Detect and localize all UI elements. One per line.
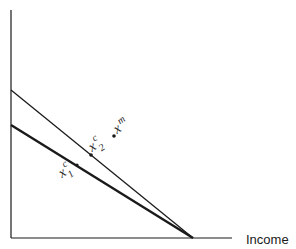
income-diagram: x c 2 x m x c 1 Income bbox=[0, 0, 296, 249]
label-x1c: x c 1 bbox=[52, 157, 77, 184]
label-xm: x m bbox=[108, 113, 132, 137]
lower-budget-line bbox=[11, 125, 193, 238]
label-x2c: x c 2 bbox=[82, 131, 107, 158]
point-xm bbox=[112, 134, 116, 138]
point-x1c bbox=[75, 163, 78, 166]
x-axis-label: Income bbox=[246, 232, 289, 247]
upper-budget-line bbox=[11, 90, 193, 238]
